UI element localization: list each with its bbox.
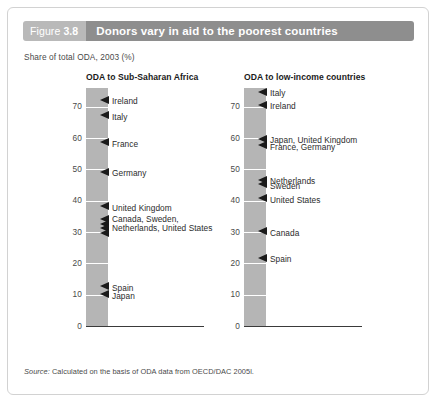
tick-label-60-right: 60 — [216, 133, 240, 143]
marker-label: Italy — [270, 89, 285, 99]
source-note: Source: Calculated on the basis of ODA d… — [24, 367, 254, 376]
marker-label: France, Germany — [270, 143, 335, 153]
tick-line-0-left — [86, 326, 108, 327]
tick-line-10-right — [244, 295, 266, 296]
axis-strip-right — [244, 88, 266, 326]
arrow-marker-icon — [100, 229, 109, 237]
marker-label: United States — [270, 196, 320, 206]
tick-line-20-right — [244, 263, 266, 264]
marker-label-line1: Canada, Sweden, — [112, 214, 179, 224]
marker-label: France — [112, 140, 138, 150]
marker-label: Sweden — [270, 182, 300, 192]
arrow-marker-icon — [258, 180, 267, 188]
tick-label-10-right: 10 — [216, 289, 240, 299]
marker-label: United Kingdom — [112, 204, 172, 214]
marker-label: Japan — [112, 292, 135, 302]
arrow-marker-icon — [100, 96, 109, 104]
tick-label-30-right: 30 — [216, 227, 240, 237]
tick-label-30-left: 30 — [58, 227, 82, 237]
marker-label: Canada, Sweden,Netherlands, United State… — [112, 215, 212, 234]
marker-label: Canada — [270, 229, 299, 239]
arrow-marker-icon — [258, 194, 267, 202]
arrow-cluster-left — [100, 215, 110, 233]
tick-label-10-left: 10 — [58, 289, 82, 299]
tick-line-20-left — [86, 263, 108, 264]
arrow-marker-icon — [258, 88, 267, 96]
chart-plot-area: ODA to Sub-Saharan Africa 70 60 50 40 — [8, 8, 428, 394]
tick-label-70-right: 70 — [216, 101, 240, 111]
marker-label: Italy — [112, 113, 127, 123]
arrow-marker-icon — [100, 168, 109, 176]
source-label: Source: — [24, 367, 50, 376]
tick-line-50-right — [244, 169, 266, 170]
panel-title-right: ODA to low-income countries — [244, 72, 365, 82]
tick-label-50-right: 50 — [216, 164, 240, 174]
panel-sub-saharan-africa: ODA to Sub-Saharan Africa 70 60 50 40 — [56, 72, 246, 342]
marker-label: Germany — [112, 169, 146, 179]
marker-label: Spain — [270, 255, 291, 265]
tick-line-70-left — [86, 107, 108, 108]
arrow-marker-icon — [258, 101, 267, 109]
arrow-marker-icon — [258, 227, 267, 235]
tick-label-0-right: 0 — [216, 321, 240, 331]
tick-label-70-left: 70 — [58, 101, 82, 111]
panel-title-left: ODA to Sub-Saharan Africa — [86, 72, 198, 82]
tick-label-20-left: 20 — [58, 258, 82, 268]
marker-label: Ireland — [112, 97, 138, 107]
arrow-marker-icon — [100, 282, 109, 290]
marker-label-line2: Netherlands, United States — [112, 223, 212, 233]
arrow-marker-icon — [100, 111, 109, 119]
tick-label-60-left: 60 — [58, 133, 82, 143]
figure-card: Figure3.8 Donors vary in aid to the poor… — [7, 7, 429, 395]
tick-label-0-left: 0 — [58, 321, 82, 331]
panel-low-income-countries: ODA to low-income countries 70 60 50 40 … — [226, 72, 416, 342]
arrow-marker-icon — [100, 202, 109, 210]
tick-label-40-right: 40 — [216, 195, 240, 205]
tick-label-50-left: 50 — [58, 164, 82, 174]
tick-line-0-right — [244, 326, 266, 327]
marker-label: Ireland — [270, 102, 296, 112]
tick-label-20-right: 20 — [216, 258, 240, 268]
arrow-marker-icon — [258, 141, 267, 149]
arrow-marker-icon — [100, 138, 109, 146]
arrow-marker-icon — [100, 290, 109, 298]
source-text: Calculated on the basis of ODA data from… — [52, 367, 254, 376]
arrow-marker-icon — [258, 254, 267, 262]
tick-label-40-left: 40 — [58, 195, 82, 205]
